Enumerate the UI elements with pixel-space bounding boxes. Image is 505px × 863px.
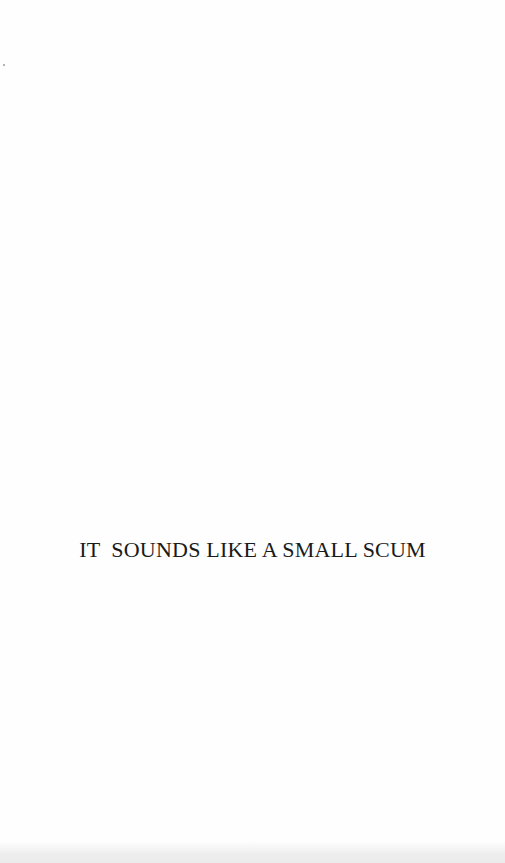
scan-edge-shadow: [0, 841, 505, 863]
half-title: IT SOUNDS LIKE A SMALL SCUM: [0, 538, 505, 562]
scan-speck: [3, 64, 5, 66]
book-page: IT SOUNDS LIKE A SMALL SCUM: [0, 0, 505, 863]
